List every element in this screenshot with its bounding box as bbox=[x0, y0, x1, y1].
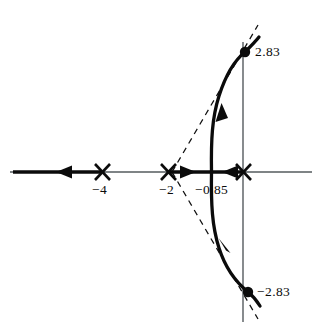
breakaway-label: −0.85 bbox=[195, 183, 228, 197]
pole-minus-two-label: −2 bbox=[159, 183, 174, 197]
imaginary-crossing-upper-dot bbox=[240, 47, 250, 57]
arrow-left-inner-icon bbox=[222, 166, 238, 179]
pole-minus-four-label: −4 bbox=[92, 183, 107, 197]
arrow-left-icon bbox=[56, 166, 72, 179]
arrow-right-icon bbox=[180, 166, 196, 179]
complex-branch-upper bbox=[211, 37, 259, 172]
root-locus-figure: −4 −2 −0.85 2.83 −2.83 bbox=[0, 0, 321, 335]
imaginary-crossing-lower-label: −2.83 bbox=[257, 285, 290, 299]
imaginary-crossing-upper-label: 2.83 bbox=[255, 45, 280, 59]
imaginary-crossing-lower-dot bbox=[243, 287, 253, 297]
